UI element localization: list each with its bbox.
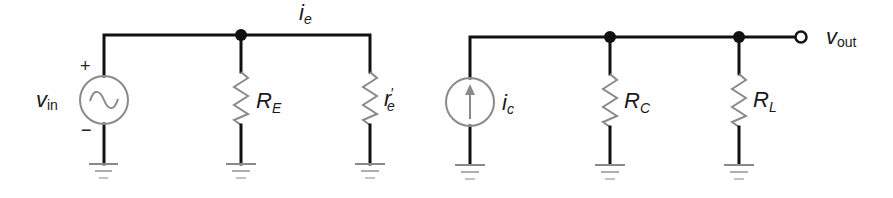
vout-label: vout	[826, 24, 857, 50]
current-source	[446, 78, 494, 126]
sine-wave-icon	[90, 92, 118, 108]
ac-voltage-source	[80, 76, 128, 124]
output-top-wire	[470, 37, 795, 78]
resistor-re-icon	[234, 72, 248, 125]
rc-label: RC	[624, 88, 651, 116]
plus-sign: +	[80, 56, 91, 76]
re-prime-label: r′e	[384, 85, 395, 114]
input-circuit: + − vin RE ie r′e	[36, 0, 395, 178]
rl-label: RL	[753, 87, 777, 115]
vin-label: vin	[36, 87, 58, 113]
resistor-rl-icon	[732, 74, 746, 127]
ground-icon	[595, 165, 625, 179]
minus-sign: −	[81, 120, 92, 140]
ground-icon	[455, 165, 485, 179]
ground-icon	[724, 165, 754, 179]
ground-icon	[89, 164, 118, 178]
resistor-re-prime-icon	[363, 72, 377, 125]
ie-label: ie	[299, 0, 312, 27]
input-top-wire	[104, 35, 370, 76]
resistor-rc-icon	[603, 74, 617, 127]
ground-icon	[355, 164, 385, 178]
re-label: RE	[256, 88, 282, 116]
output-terminal[interactable]	[796, 32, 807, 43]
ic-label: ic	[502, 90, 514, 117]
circuit-diagram: + − vin RE ie r′e	[0, 0, 893, 198]
ground-icon	[226, 164, 256, 178]
output-circuit: ic RC RL vout	[446, 24, 857, 179]
arrow-head-icon	[465, 84, 475, 95]
